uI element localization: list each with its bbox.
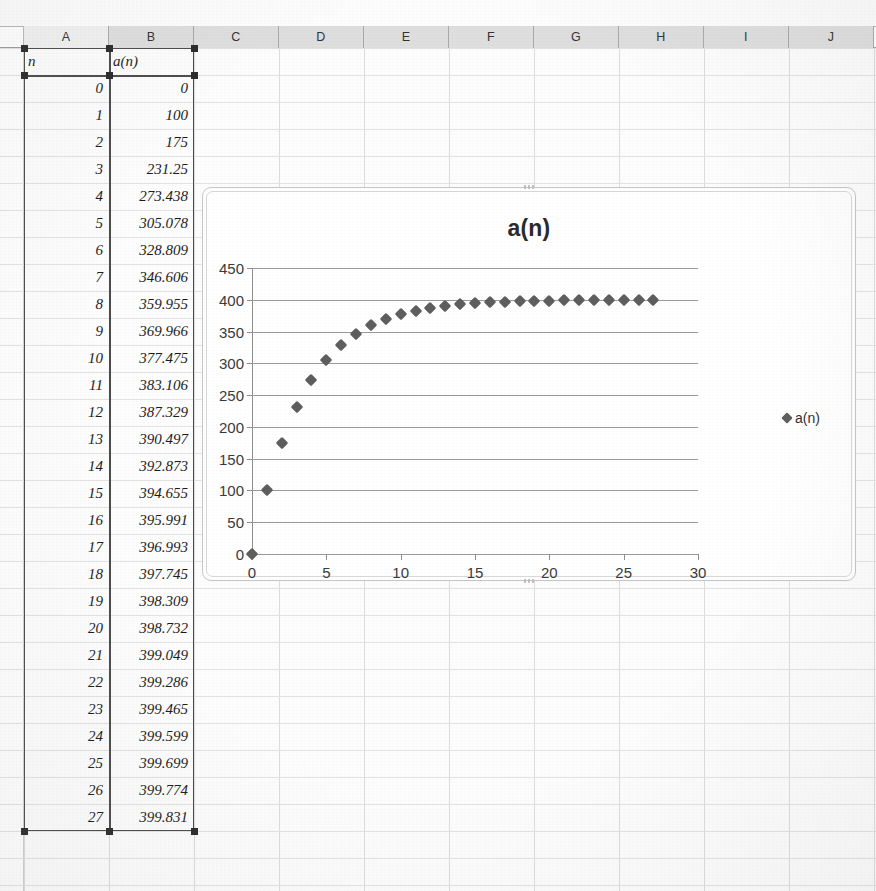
cell-column-b-an-value[interactable]: 175: [109, 129, 194, 156]
chart-data-point[interactable]: [513, 295, 526, 308]
cell-column-b-an-value[interactable]: 398.309: [109, 588, 194, 615]
cell-column-a-n-value[interactable]: 5: [24, 210, 109, 237]
cell-column-b-an-value[interactable]: 399.049: [109, 642, 194, 669]
selection-handle-bottom-left[interactable]: [21, 828, 28, 835]
cell-column-b-an-value[interactable]: 398.732: [109, 615, 194, 642]
cell-column-b-an-value[interactable]: 399.465: [109, 696, 194, 723]
cell-column-a-n-value[interactable]: 21: [24, 642, 109, 669]
selection-handle-bottom-mid[interactable]: [106, 828, 113, 835]
cell-column-a-n-value[interactable]: 8: [24, 291, 109, 318]
cell-column-b-an-value[interactable]: 396.993: [109, 534, 194, 561]
cell-column-b-an-value[interactable]: 305.078: [109, 210, 194, 237]
cell-column-a-n-value[interactable]: 3: [24, 156, 109, 183]
column-header-e[interactable]: E: [364, 26, 449, 48]
chart-data-point[interactable]: [573, 294, 586, 307]
cell-column-b-an-value[interactable]: 397.745: [109, 561, 194, 588]
column-header-f[interactable]: F: [449, 26, 534, 48]
cell-column-b-an-value[interactable]: 390.497: [109, 426, 194, 453]
cell-column-b-an-value[interactable]: 395.991: [109, 507, 194, 534]
cell-column-b-an-value[interactable]: 399.699: [109, 750, 194, 777]
cell-column-b-an-value[interactable]: 346.606: [109, 264, 194, 291]
cell-column-a-n-value[interactable]: 15: [24, 480, 109, 507]
chart-resize-handle-bottom[interactable]: [524, 579, 534, 583]
selection-handle-top-mid[interactable]: [106, 45, 113, 52]
column-header-j[interactable]: J: [789, 26, 874, 48]
chart-legend[interactable]: a(n): [783, 410, 820, 426]
cell-column-b-an-value[interactable]: 399.599: [109, 723, 194, 750]
chart-data-point[interactable]: [617, 294, 630, 307]
cell-column-a-n-value[interactable]: 0: [24, 75, 109, 102]
cell-column-a-n-value[interactable]: 22: [24, 669, 109, 696]
selection-handle-top-left[interactable]: [21, 45, 28, 52]
chart-data-point[interactable]: [483, 296, 496, 309]
cell-column-b-an-value[interactable]: 399.286: [109, 669, 194, 696]
chart-data-point[interactable]: [424, 301, 437, 314]
cell-column-a-n-value[interactable]: 11: [24, 372, 109, 399]
chart-data-point[interactable]: [409, 304, 422, 317]
cell-column-a-n-value[interactable]: 1: [24, 102, 109, 129]
cell-column-a-n-value[interactable]: 26: [24, 777, 109, 804]
cell-column-b-an-value[interactable]: 231.25: [109, 156, 194, 183]
selection-handle-mid-center[interactable]: [106, 72, 113, 79]
column-header-b[interactable]: B: [109, 26, 194, 48]
cell-column-b-an-value[interactable]: 377.475: [109, 345, 194, 372]
chart-data-point[interactable]: [528, 294, 541, 307]
cell-a1-header-n[interactable]: n: [24, 48, 109, 75]
selection-handle-mid-left[interactable]: [21, 72, 28, 79]
cell-column-a-n-value[interactable]: 18: [24, 561, 109, 588]
selection-handle-top-right[interactable]: [191, 45, 198, 52]
cell-column-a-n-value[interactable]: 2: [24, 129, 109, 156]
cell-column-b-an-value[interactable]: 387.329: [109, 399, 194, 426]
column-header-d[interactable]: D: [279, 26, 364, 48]
cell-column-a-n-value[interactable]: 4: [24, 183, 109, 210]
cell-column-b-an-value[interactable]: 0: [109, 75, 194, 102]
chart-data-point[interactable]: [543, 294, 556, 307]
column-header-i[interactable]: I: [704, 26, 789, 48]
cell-column-a-n-value[interactable]: 7: [24, 264, 109, 291]
cell-column-a-n-value[interactable]: 19: [24, 588, 109, 615]
chart-data-point[interactable]: [290, 401, 303, 414]
cell-column-b-an-value[interactable]: 100: [109, 102, 194, 129]
column-header-g[interactable]: G: [534, 26, 619, 48]
chart-data-point[interactable]: [469, 297, 482, 310]
chart-data-point[interactable]: [394, 308, 407, 321]
cell-column-b-an-value[interactable]: 328.809: [109, 237, 194, 264]
chart-data-point[interactable]: [335, 339, 348, 352]
cell-column-b-an-value[interactable]: 369.966: [109, 318, 194, 345]
chart-data-point[interactable]: [498, 295, 511, 308]
cell-column-a-n-value[interactable]: 6: [24, 237, 109, 264]
cell-column-a-n-value[interactable]: 25: [24, 750, 109, 777]
chart-data-point[interactable]: [632, 294, 645, 307]
chart-data-point[interactable]: [260, 484, 273, 497]
cell-column-a-n-value[interactable]: 12: [24, 399, 109, 426]
cell-column-b-an-value[interactable]: 359.955: [109, 291, 194, 318]
chart-data-point[interactable]: [275, 436, 288, 449]
chart-data-point[interactable]: [439, 299, 452, 312]
chart-data-point[interactable]: [350, 327, 363, 340]
cell-column-a-n-value[interactable]: 17: [24, 534, 109, 561]
cell-column-a-n-value[interactable]: 14: [24, 453, 109, 480]
cell-b1-header-an[interactable]: a(n): [109, 48, 194, 75]
chart-data-point[interactable]: [379, 312, 392, 325]
chart-data-point[interactable]: [320, 354, 333, 367]
cell-column-a-n-value[interactable]: 16: [24, 507, 109, 534]
column-header-c[interactable]: C: [194, 26, 279, 48]
chart-data-point[interactable]: [588, 294, 601, 307]
chart-resize-handle-top[interactable]: [524, 185, 534, 189]
column-header-h[interactable]: H: [619, 26, 704, 48]
cell-column-b-an-value[interactable]: 273.438: [109, 183, 194, 210]
chart-data-point[interactable]: [602, 294, 615, 307]
chart-data-point[interactable]: [305, 374, 318, 387]
cell-column-a-n-value[interactable]: 24: [24, 723, 109, 750]
cell-column-a-n-value[interactable]: 20: [24, 615, 109, 642]
cell-column-b-an-value[interactable]: 399.774: [109, 777, 194, 804]
chart-data-point[interactable]: [647, 294, 660, 307]
cell-column-a-n-value[interactable]: 13: [24, 426, 109, 453]
cell-column-a-n-value[interactable]: 23: [24, 696, 109, 723]
cell-column-b-an-value[interactable]: 399.831: [109, 804, 194, 831]
cell-column-b-an-value[interactable]: 392.873: [109, 453, 194, 480]
chart-data-point[interactable]: [558, 294, 571, 307]
cell-column-a-n-value[interactable]: 9: [24, 318, 109, 345]
selection-handle-mid-right[interactable]: [191, 72, 198, 79]
cell-column-a-n-value[interactable]: 10: [24, 345, 109, 372]
